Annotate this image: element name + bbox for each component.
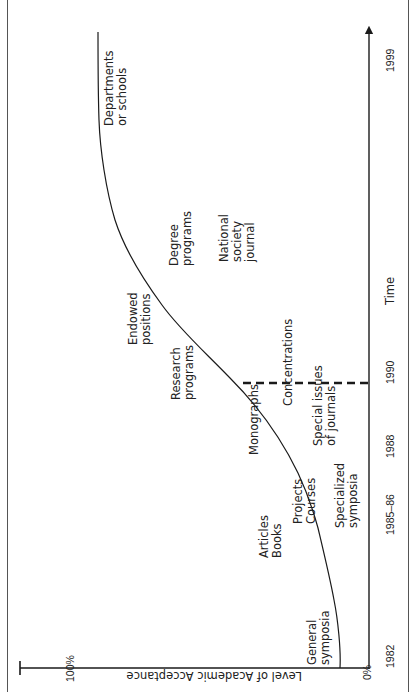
label-endowed-positions: Endowed positions <box>127 292 153 345</box>
label-specialized-symposia: Specialized symposia <box>334 463 360 528</box>
label-departments-schools: Departments or schools <box>103 50 129 126</box>
tick-100-percent: 100% <box>64 655 77 682</box>
label-degree-programs: Degree programs <box>168 211 194 266</box>
label-special-issues: Special issues of journals <box>312 365 338 446</box>
tick-1988: 1988 <box>384 435 397 458</box>
tick-1990: 1990 <box>384 361 397 384</box>
label-national-society-journal: National society journal <box>218 214 257 262</box>
tick-1985-86: 1985–86 <box>384 494 397 535</box>
tick-1999: 1999 <box>384 49 397 72</box>
label-articles-books: Articles Books <box>258 515 284 558</box>
acceptance-curve <box>98 32 340 668</box>
label-general-symposia: General symposia <box>306 610 332 665</box>
label-research-programs: Research programs <box>170 345 196 400</box>
label-concentrations: Concentrations <box>282 319 295 406</box>
label-monographs: Monographs <box>248 384 261 455</box>
acceptance-axis-title: Level of Academic Acceptance <box>127 669 302 682</box>
tick-0-percent: 0% <box>361 665 374 680</box>
tick-1982: 1982 <box>384 645 397 668</box>
time-axis-title: Time <box>384 277 397 305</box>
acceptance-chart <box>0 0 418 692</box>
label-projects-courses: Projects Courses <box>292 478 318 524</box>
